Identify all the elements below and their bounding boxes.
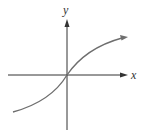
curve-arrow-icon bbox=[120, 35, 128, 41]
y-axis-label: y bbox=[63, 4, 68, 16]
function-curve bbox=[13, 35, 128, 112]
graph-canvas bbox=[0, 0, 145, 133]
y-axis-arrow-icon bbox=[65, 19, 70, 27]
x-axis-label: x bbox=[131, 69, 136, 81]
x-axis-arrow-icon bbox=[120, 73, 128, 78]
